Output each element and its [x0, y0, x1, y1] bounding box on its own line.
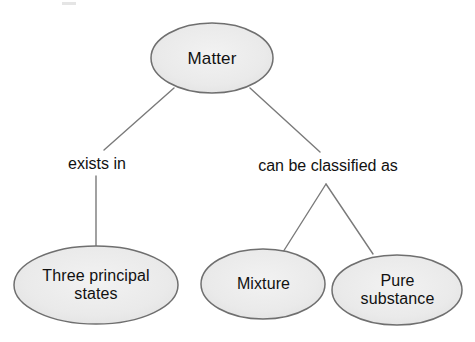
node-three-principal-states[interactable]: [14, 246, 178, 324]
edge-matter-to-exists-in: [104, 88, 174, 150]
edge-classified-to-mixture: [283, 184, 326, 252]
concept-map-canvas: Matter Three principal states Mixture Pu…: [0, 0, 475, 342]
edge-classified-to-pure-substance: [326, 184, 373, 254]
edge-matter-to-can-be-classified-as: [250, 88, 320, 152]
node-pure-substance[interactable]: [332, 255, 463, 325]
node-mixture[interactable]: [201, 249, 326, 319]
node-matter[interactable]: [151, 23, 273, 94]
